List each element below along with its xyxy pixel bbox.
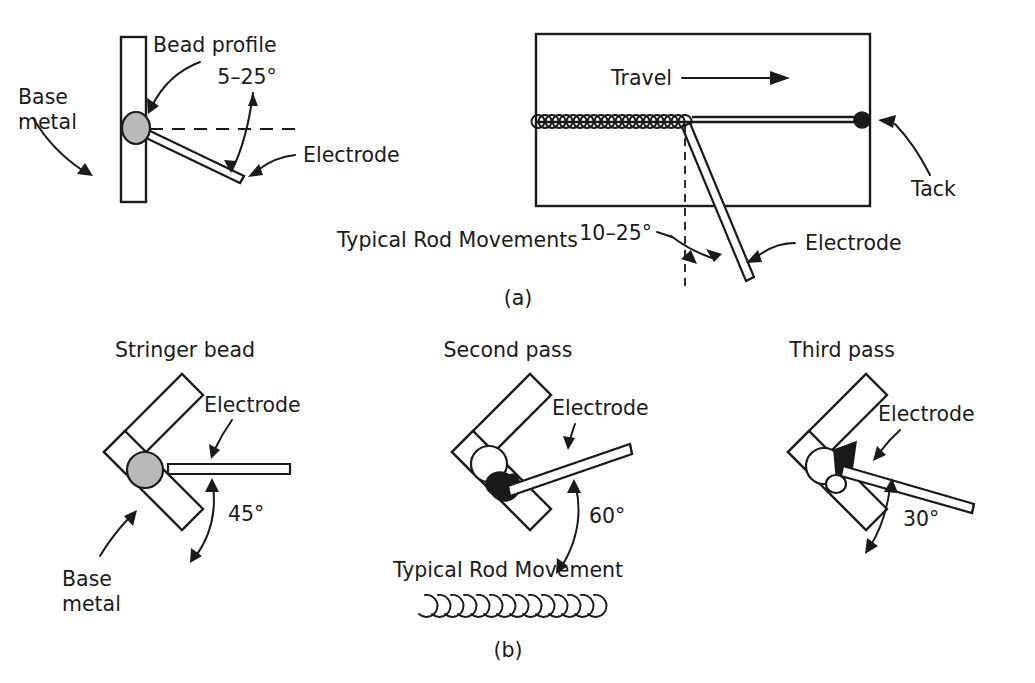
base-metal-label-line2: metal bbox=[18, 110, 77, 134]
third-pass-title: Third pass bbox=[788, 338, 895, 362]
welding-electrode-angle-figure: Base metal Bead profile 5–25° Electrode bbox=[0, 0, 1035, 683]
typical-rod-movements-subtitle: Typical Rod Movements bbox=[336, 228, 578, 252]
second-pass-title: Second pass bbox=[444, 338, 573, 362]
stringer-bead-blob bbox=[127, 452, 163, 488]
angle-label-5-25: 5–25° bbox=[217, 65, 277, 89]
caption-a: (a) bbox=[504, 286, 533, 310]
typical-rod-movement-subtitle: Typical Rod Movement bbox=[392, 558, 623, 582]
base-metal-label-bl-line2: metal bbox=[62, 592, 121, 616]
angle-label-60: 60° bbox=[589, 504, 625, 528]
tack-label: Tack bbox=[910, 177, 956, 201]
electrode-label-bm: Electrode bbox=[552, 396, 649, 420]
bead-profile-blob bbox=[122, 112, 150, 144]
bead-profile-label: Bead profile bbox=[153, 33, 277, 57]
travel-label: Travel bbox=[610, 66, 672, 90]
stringer-bead-title: Stringer bead bbox=[115, 338, 255, 362]
electrode-label-tr: Electrode bbox=[805, 231, 902, 255]
electrode-label-tl: Electrode bbox=[303, 143, 400, 167]
angle-label-10-25: 10–25° bbox=[579, 221, 652, 245]
tack-weld-dot bbox=[854, 112, 870, 128]
base-metal-label-bl-line1: Base bbox=[62, 567, 112, 591]
angle-label-45: 45° bbox=[228, 502, 264, 526]
electrode-label-br: Electrode bbox=[878, 402, 975, 426]
electrode-rod-bl bbox=[168, 464, 290, 474]
base-metal-label-line1: Base bbox=[18, 85, 68, 109]
caption-b: (b) bbox=[493, 638, 522, 662]
electrode-label-bl: Electrode bbox=[204, 393, 301, 417]
angle-label-30: 30° bbox=[903, 507, 939, 531]
